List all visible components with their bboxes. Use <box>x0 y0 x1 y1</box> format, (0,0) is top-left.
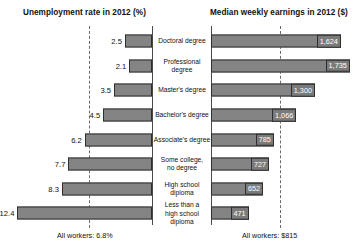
unemployment-track: 6.2 <box>0 127 152 152</box>
category-label: Bachelor's degree <box>153 111 211 119</box>
unemployment-value-label: 6.2 <box>71 135 82 144</box>
earnings-track: 1,624 <box>211 29 363 54</box>
unemployment-track: 4.5 <box>0 103 152 128</box>
unemployment-value-label: 7.7 <box>55 160 66 169</box>
unemployment-value-label: 4.5 <box>90 111 101 120</box>
earnings-track: 727 <box>211 152 363 177</box>
chart-row: 7.7Some college,no degree727 <box>0 152 363 177</box>
earnings-value-label: 727 <box>251 158 269 171</box>
unemployment-value-label: 2.1 <box>116 61 127 70</box>
earnings-value-label: 1,735 <box>326 60 350 73</box>
chart-row: 4.5Bachelor's degree1,066 <box>0 103 363 128</box>
butterfly-chart: Unemployment rate in 2012 (%) Median wee… <box>0 0 363 252</box>
chart-row: 12.4Less than ahigh school diploma471 <box>0 201 363 226</box>
unemployment-track: 12.4 <box>0 201 152 226</box>
unemployment-bar <box>17 207 152 220</box>
category-label: Less than ahigh school diploma <box>153 201 211 226</box>
category-label: Professional degree <box>153 58 211 74</box>
unemployment-value-label: 12.4 <box>0 209 14 218</box>
chart-row: 6.2Associate's degree785 <box>0 127 363 152</box>
chart-rows: 2.5Doctoral degree1,6242.1Professional d… <box>0 29 363 226</box>
unemployment-track: 2.5 <box>0 29 152 54</box>
unemployment-value-label: 8.3 <box>48 184 59 193</box>
category-label: Master's degree <box>153 86 211 94</box>
earnings-value-label: 471 <box>231 207 249 220</box>
unemployment-track: 7.7 <box>0 152 152 177</box>
left-all-workers-note: All workers: 6.8% <box>57 231 113 240</box>
right-panel-title: Median weekly earnings in 2012 ($) <box>210 8 348 17</box>
category-label: Doctoral degree <box>153 37 211 45</box>
unemployment-bar <box>62 182 152 195</box>
earnings-track: 1,300 <box>211 78 363 103</box>
earnings-value-label: 785 <box>256 133 274 146</box>
earnings-track: 785 <box>211 127 363 152</box>
chart-row: 8.3High school diploma652 <box>0 177 363 202</box>
unemployment-value-label: 3.5 <box>100 86 111 95</box>
unemployment-value-label: 2.5 <box>111 37 122 46</box>
unemployment-bar <box>85 133 152 146</box>
unemployment-track: 3.5 <box>0 78 152 103</box>
earnings-track: 1,066 <box>211 103 363 128</box>
category-label: Associate's degree <box>153 136 211 144</box>
earnings-value-label: 1,066 <box>272 109 296 122</box>
unemployment-bar <box>114 84 152 97</box>
chart-row: 2.1Professional degree1,735 <box>0 54 363 79</box>
right-all-workers-note: All workers: $815 <box>242 231 297 240</box>
earnings-track: 652 <box>211 177 363 202</box>
unemployment-track: 2.1 <box>0 54 152 79</box>
unemployment-track: 8.3 <box>0 177 152 202</box>
earnings-value-label: 1,300 <box>291 84 315 97</box>
chart-row: 3.5Master's degree1,300 <box>0 78 363 103</box>
left-panel-title: Unemployment rate in 2012 (%) <box>23 8 146 17</box>
unemployment-bar <box>129 59 152 72</box>
category-label: High school diploma <box>153 181 211 197</box>
earnings-value-label: 652 <box>245 183 263 196</box>
earnings-track: 471 <box>211 201 363 226</box>
chart-row: 2.5Doctoral degree1,624 <box>0 29 363 54</box>
unemployment-bar <box>125 35 152 48</box>
earnings-value-label: 1,624 <box>317 35 341 48</box>
earnings-track: 1,735 <box>211 54 363 79</box>
unemployment-bar <box>103 109 152 122</box>
unemployment-bar <box>68 158 152 171</box>
category-label: Some college,no degree <box>153 156 211 172</box>
